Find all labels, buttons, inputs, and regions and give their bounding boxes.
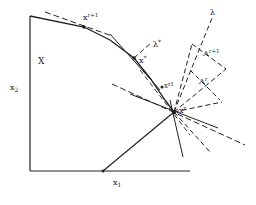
point-xr1: [82, 25, 86, 29]
label-Lambda-r: Λr: [198, 76, 208, 86]
label-y-axis: x2: [10, 83, 19, 93]
label-x-axis: x1: [113, 178, 121, 188]
point-axis: [102, 170, 105, 173]
tangent-top: [45, 12, 112, 36]
label-xr-one: xr1: [164, 81, 174, 90]
label-Lambda-r1: Λr+1: [202, 48, 220, 58]
label-xstar: x*: [139, 54, 147, 65]
label-xr1: xr+1: [83, 12, 98, 22]
label-xr: xr: [179, 105, 187, 115]
ray-to-xr: [103, 112, 174, 171]
point-xr: [172, 110, 176, 114]
label-region: X: [38, 56, 45, 66]
feasible-boundary: [30, 16, 174, 112]
Lambda-r1-vector: [174, 44, 192, 112]
label-lambda: λ: [210, 8, 215, 17]
diagram: X x2 x1 xr+1 x* λ* xr1 xr λ Λr+1 Λr: [0, 0, 256, 205]
point-xstar: [132, 56, 136, 60]
lambda-vector: [174, 18, 212, 112]
label-lambda-star: λ*: [153, 38, 161, 49]
